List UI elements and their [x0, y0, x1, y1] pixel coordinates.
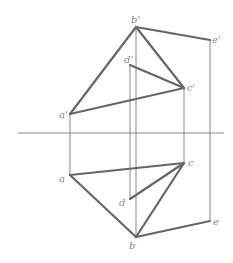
- edge-a-b: [70, 175, 136, 237]
- projection-diagram: b'e'd'c'a'acdbe: [0, 0, 233, 263]
- label-b: b: [129, 240, 135, 251]
- label-e-prime: e': [212, 34, 221, 45]
- edge-b-c: [136, 163, 184, 237]
- label-d-prime: d': [124, 54, 133, 65]
- edge-b-e: [136, 221, 210, 237]
- label-c: c: [188, 157, 194, 168]
- label-b-prime: b': [131, 14, 140, 25]
- label-e: e: [213, 216, 219, 227]
- projection-lines: [70, 27, 210, 237]
- label-d: d: [119, 197, 125, 208]
- label-a: a: [59, 173, 65, 184]
- edges: [70, 27, 210, 237]
- edge-bp-ep: [136, 27, 210, 40]
- label-c-prime: c': [187, 82, 195, 93]
- label-a-prime: a': [59, 109, 68, 120]
